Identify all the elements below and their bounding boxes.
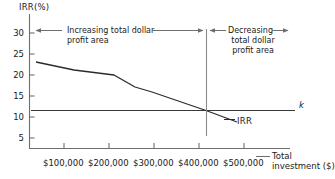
x-tick-marks [64, 143, 244, 149]
y-tick-marks [30, 33, 35, 138]
